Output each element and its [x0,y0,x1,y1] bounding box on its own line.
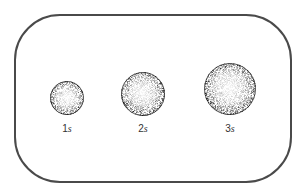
subshell-letter: s [144,123,148,134]
orbital-label: 3s [225,123,234,134]
subshell-letter: s [231,123,235,134]
orbital-1s [50,81,84,115]
orbital-3s [204,63,256,115]
orbital-2s [121,72,165,116]
orbital-canvas [0,0,304,191]
orbital-label: 2s [138,123,147,134]
subshell-letter: s [68,123,72,134]
orbital-label: 1s [62,123,71,134]
